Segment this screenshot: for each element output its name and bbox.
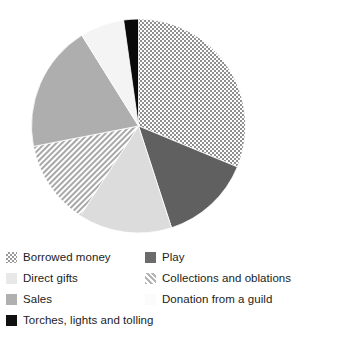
pie-chart-plot-area — [0, 0, 339, 245]
legend-item-label: Play — [162, 251, 185, 264]
legend-item-play[interactable]: Play — [145, 247, 339, 268]
legend-item-sales[interactable]: Sales — [6, 289, 146, 310]
legend-item-torches-lights-and-tolling[interactable]: Torches, lights and tolling — [6, 310, 146, 331]
legend-swatch-icon — [145, 252, 156, 263]
legend-item-direct-gifts[interactable]: Direct gifts — [6, 268, 146, 289]
pie-chart-figure: Borrowed money Direct gifts Sales Torche… — [0, 0, 339, 338]
legend-item-label: Donation from a guild — [162, 293, 272, 306]
legend-item-label: Sales — [23, 293, 52, 306]
legend-swatch-icon — [145, 273, 156, 284]
legend-item-label: Collections and oblations — [162, 272, 291, 285]
legend-item-label: Borrowed money — [23, 251, 111, 264]
legend-item-collections-and-oblations[interactable]: Collections and oblations — [145, 268, 339, 289]
legend-item-label: Torches, lights and tolling — [23, 314, 153, 327]
legend-swatch-icon — [6, 273, 17, 284]
legend-column-left: Borrowed money Direct gifts Sales Torche… — [6, 247, 146, 331]
legend-item-borrowed-money[interactable]: Borrowed money — [6, 247, 146, 268]
legend-item-donation-from-a-guild[interactable]: Donation from a guild — [145, 289, 339, 310]
legend-item-label: Direct gifts — [23, 272, 78, 285]
pie-chart-svg — [0, 0, 339, 245]
legend-swatch-icon — [6, 294, 17, 305]
chart-legend: Borrowed money Direct gifts Sales Torche… — [0, 247, 339, 338]
legend-swatch-icon — [145, 294, 156, 305]
legend-column-right: Play Collections and oblations Donation … — [145, 247, 339, 310]
legend-swatch-icon — [6, 315, 17, 326]
pie-slice-group — [32, 19, 246, 233]
legend-swatch-icon — [6, 252, 17, 263]
